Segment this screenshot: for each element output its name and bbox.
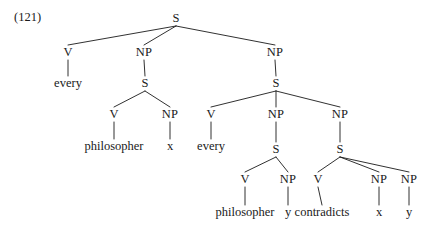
tree-category-label: NP [162,108,178,121]
tree-category-label: S [272,77,279,90]
tree-edge [176,26,275,45]
tree-edge [340,157,409,172]
tree-leaf-label: x [167,140,173,153]
tree-edge [245,157,276,172]
tree-category-label: V [240,173,249,186]
tree-edge [275,60,276,76]
syntax-tree-figure: (121) SVNPNPeverySSVNPVNPNPphilosopherxe… [0,0,437,229]
tree-edge [318,157,340,172]
tree-category-label: NP [267,46,283,59]
tree-category-label: V [206,108,215,121]
tree-leaf-label: y [406,206,412,219]
tree-category-label: NP [136,46,152,59]
tree-edge [145,91,170,107]
tree-category-label: S [141,77,148,90]
tree-category-label: NP [268,108,284,121]
tree-leaf-label: every [197,140,225,153]
tree-category-label: NP [401,173,417,186]
tree-leaf-label: philosopher [215,206,274,219]
tree-edge [276,91,340,107]
tree-category-label: S [172,12,179,25]
tree-category-label: V [109,108,118,121]
tree-category-label: S [336,143,343,156]
tree-edge [211,91,276,107]
tree-category-label: S [272,143,279,156]
tree-category-label: V [63,46,72,59]
tree-edge [114,91,145,107]
tree-edges [0,0,437,229]
tree-category-label: V [313,173,322,186]
tree-edge [144,60,145,76]
tree-category-label: NP [332,108,348,121]
tree-leaf-label: x [376,206,382,219]
tree-edge [276,157,288,172]
tree-leaf-label: philosopher [84,140,143,153]
tree-leaf-label: contradicts [295,206,350,219]
tree-category-label: NP [280,173,296,186]
tree-leaf-label: every [54,77,82,90]
tree-category-label: NP [371,173,387,186]
tree-edge [318,187,322,205]
tree-leaf-label: y [285,206,291,219]
